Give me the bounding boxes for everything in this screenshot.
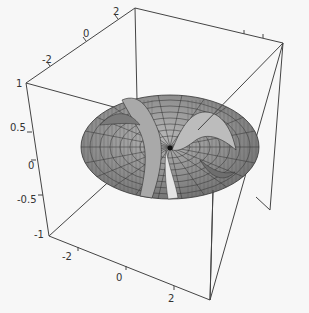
bottom-axis-tick-2: 2	[168, 293, 174, 304]
top-axis-tick-neg2: -2	[42, 54, 52, 65]
z-axis-tick-neg0-5: -0.5	[17, 194, 37, 205]
z-axis-tick-0-5: 0.5	[10, 122, 26, 133]
z-axis-tick-1: 1	[16, 78, 22, 89]
top-axis-tick-0: 0	[83, 28, 89, 39]
surface	[81, 95, 259, 200]
top-axis-tick-2: 2	[113, 6, 119, 17]
z-axis-tick-0: 0	[28, 160, 34, 171]
bottom-axis-tick-neg2: -2	[62, 251, 72, 262]
surface-plot: -2 0 2 1 0.5 0 -0.5 -1 -2 0 2	[0, 0, 309, 313]
bottom-axis-tick-0: 0	[116, 272, 122, 283]
z-axis-tick-neg1: -1	[34, 229, 44, 240]
